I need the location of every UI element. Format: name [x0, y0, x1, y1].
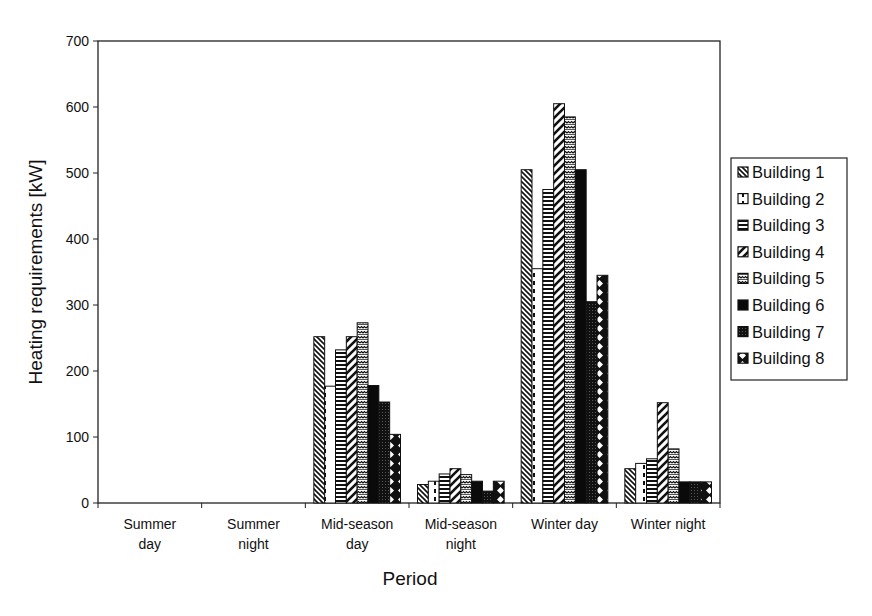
bar-building-7 — [379, 402, 390, 503]
bar-building-5 — [357, 323, 368, 503]
bar-building-6 — [679, 482, 690, 503]
legend-entry-label: Building 6 — [752, 296, 824, 314]
bar-building-1 — [625, 469, 636, 503]
legend-swatch-icon — [738, 247, 748, 257]
bar-building-3 — [647, 459, 658, 503]
y-tick-label: 0 — [81, 495, 89, 511]
plot-area-frame — [98, 41, 720, 503]
bar-building-1 — [314, 337, 325, 503]
bar-building-2 — [532, 269, 543, 503]
y-tick-label: 400 — [66, 231, 90, 247]
bar-building-7 — [586, 302, 597, 503]
legend: Building 1Building 2Building 3Building 4… — [731, 158, 847, 380]
legend-swatch-icon — [738, 353, 748, 363]
x-tick-label: Mid-seasonday — [321, 516, 393, 552]
bar-building-4 — [657, 403, 668, 503]
bar-series-group — [314, 104, 712, 503]
x-tick-label: Winter night — [631, 516, 706, 532]
bar-building-4 — [450, 469, 461, 503]
bar-building-5 — [565, 117, 576, 503]
x-tick-label: Summernight — [227, 516, 280, 552]
bar-building-5 — [668, 449, 679, 503]
x-tick-label: Summerday — [123, 516, 176, 552]
bar-building-7 — [483, 491, 494, 503]
y-tick-label: 600 — [66, 99, 90, 115]
x-axis-label: Period — [383, 568, 438, 589]
bar-building-8 — [493, 481, 504, 503]
chart-canvas: 0100200300400500600700 SummerdaySummerni… — [0, 0, 872, 616]
legend-entry-label: Building 1 — [752, 163, 824, 181]
legend-entry-label: Building 3 — [752, 216, 824, 234]
legend-swatch-icon — [738, 300, 748, 310]
bar-building-4 — [554, 104, 565, 503]
x-tick-label: Winter day — [531, 516, 598, 532]
y-tick-label: 300 — [66, 297, 90, 313]
legend-swatch-icon — [738, 194, 748, 204]
bar-building-4 — [346, 337, 357, 503]
x-axis: SummerdaySummernightMid-seasondayMid-sea… — [98, 503, 720, 552]
bar-building-1 — [418, 485, 429, 503]
bar-building-7 — [690, 482, 701, 503]
legend-entry-label: Building 2 — [752, 190, 824, 208]
y-axis-label: Heating requirements [kW] — [25, 160, 46, 385]
y-tick-label: 100 — [66, 429, 90, 445]
bar-building-3 — [439, 474, 450, 503]
bar-building-6 — [575, 170, 586, 503]
bar-building-6 — [368, 386, 379, 503]
bar-building-5 — [461, 475, 472, 503]
legend-entry-label: Building 7 — [752, 323, 824, 341]
legend-swatch-icon — [738, 167, 748, 177]
x-tick-label: Mid-seasonnight — [425, 516, 497, 552]
y-tick-label: 200 — [66, 363, 90, 379]
bar-building-3 — [336, 350, 347, 503]
bar-building-2 — [325, 386, 336, 503]
bar-building-8 — [390, 434, 401, 503]
legend-swatch-icon — [738, 220, 748, 230]
legend-swatch-icon — [738, 273, 748, 283]
legend-entry-label: Building 5 — [752, 269, 824, 287]
heating-requirements-chart: 0100200300400500600700 SummerdaySummerni… — [0, 0, 872, 616]
legend-swatch-icon — [738, 327, 748, 337]
bar-building-8 — [597, 275, 608, 503]
legend-entry-label: Building 8 — [752, 349, 824, 367]
bar-building-3 — [543, 190, 554, 504]
bar-building-6 — [472, 481, 483, 503]
y-axis: 0100200300400500600700 — [66, 33, 98, 511]
bar-building-2 — [636, 463, 647, 503]
bar-building-2 — [428, 481, 439, 503]
legend-entry-label: Building 4 — [752, 243, 824, 261]
y-tick-label: 700 — [66, 33, 90, 49]
bar-building-8 — [701, 482, 712, 503]
y-tick-label: 500 — [66, 165, 90, 181]
bar-building-1 — [521, 170, 532, 503]
